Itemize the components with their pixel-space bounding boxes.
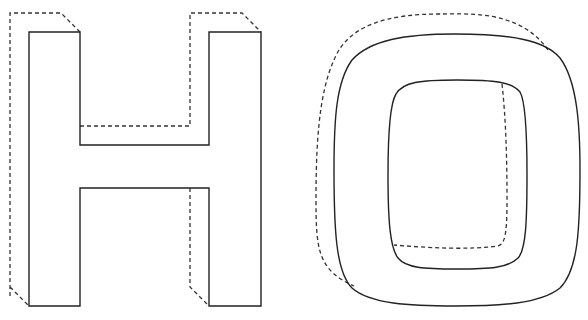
letter-o-outer-back-edge <box>316 14 548 286</box>
letter-h <box>10 13 261 306</box>
letter-o-outer-front <box>334 34 580 306</box>
letter-o-inner-back-edge <box>394 84 507 248</box>
letter-o-inner-front <box>388 80 527 269</box>
letter-h-back-edges <box>10 13 261 306</box>
letters-diagram <box>0 0 588 320</box>
letter-h-front-face <box>29 32 261 306</box>
letter-o <box>316 14 580 306</box>
